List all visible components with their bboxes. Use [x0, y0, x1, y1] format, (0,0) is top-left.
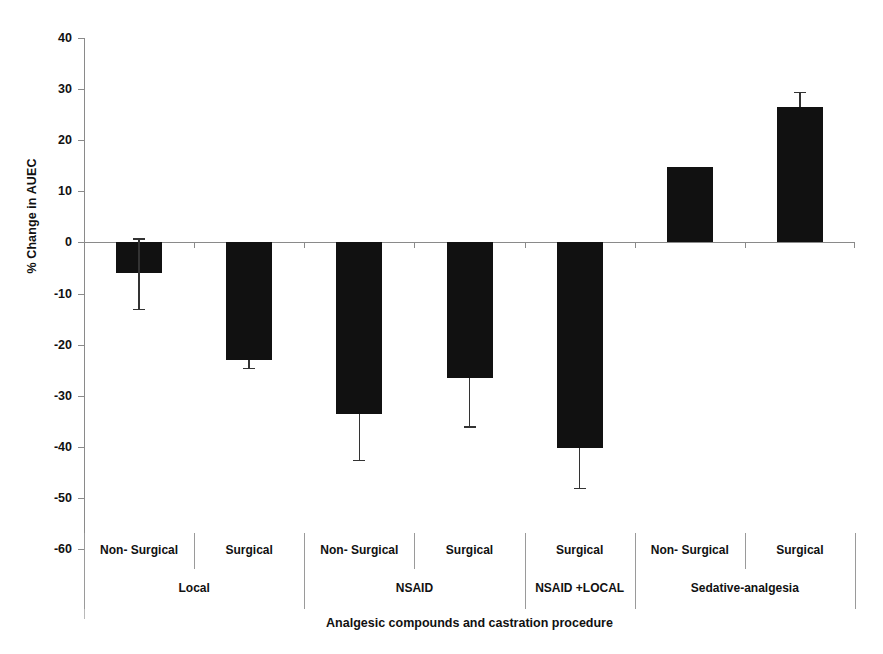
bar-chart-figure: % Change in AUEC 403020100-10-20-30-40-5… [0, 0, 883, 654]
error-bar-line [469, 378, 471, 427]
category-label: Surgical [745, 543, 855, 557]
error-bar-line [799, 92, 801, 107]
error-bar-line [579, 448, 581, 487]
y-tick-label: 40 [12, 31, 72, 45]
y-tick-label: -10 [12, 287, 72, 301]
y-tick-label: 10 [12, 184, 72, 198]
error-bar-line [248, 360, 250, 368]
y-tick-label: -60 [12, 542, 72, 556]
group-separator [855, 533, 856, 609]
error-bar-line [138, 273, 140, 309]
x-tick-mark [854, 242, 855, 248]
category-label: Surgical [525, 543, 635, 557]
y-tick-label: 30 [12, 82, 72, 96]
y-tick-label: -30 [12, 389, 72, 403]
x-tick-mark [414, 242, 415, 248]
group-label: Sedative-analgesia [635, 581, 855, 595]
error-bar-line [138, 238, 140, 273]
x-tick-mark [635, 242, 636, 248]
bar [557, 242, 603, 448]
error-bar-cap [464, 426, 476, 428]
group-label: Local [84, 581, 304, 595]
error-bar-cap [574, 488, 586, 490]
group-label: NSAID [304, 581, 524, 595]
category-label: Non- Surgical [84, 543, 194, 557]
y-axis-title: % Change in AUEC [25, 136, 47, 296]
category-axis: Non- SurgicalSurgicalNon- SurgicalSurgic… [84, 519, 855, 619]
category-label: Non- Surgical [635, 543, 745, 557]
error-bar-cap [243, 368, 255, 370]
x-axis-title: Analgesic compounds and castration proce… [84, 616, 855, 630]
group-label: NSAID +LOCAL [525, 581, 635, 595]
x-tick-mark [525, 242, 526, 248]
x-tick-mark [745, 242, 746, 248]
x-tick-mark [84, 242, 85, 248]
bar [226, 242, 272, 360]
y-tick-label: -20 [12, 338, 72, 352]
x-tick-mark [304, 242, 305, 248]
error-bar-cap [133, 238, 145, 240]
bar [447, 242, 493, 377]
plot-area [84, 38, 855, 549]
error-bar-cap [353, 460, 365, 462]
y-tick-label: 0 [12, 235, 72, 249]
category-label: Non- Surgical [304, 543, 414, 557]
y-tick-label: -40 [12, 440, 72, 454]
bar [777, 107, 823, 242]
category-label: Surgical [194, 543, 304, 557]
bar [336, 242, 382, 413]
x-tick-mark [194, 242, 195, 248]
error-bar-cap [133, 309, 145, 311]
error-bar-cap [794, 92, 806, 94]
category-label: Surgical [414, 543, 524, 557]
bar [667, 167, 713, 243]
y-tick-label: 20 [12, 133, 72, 147]
error-bar-line [359, 414, 361, 460]
y-tick-label: -50 [12, 491, 72, 505]
